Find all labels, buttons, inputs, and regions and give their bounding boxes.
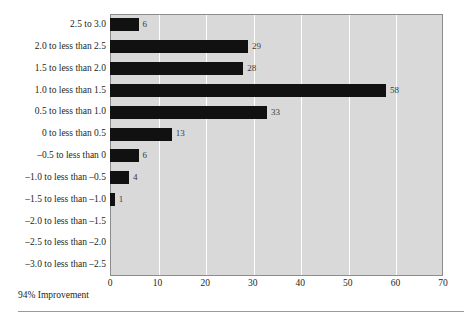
x-tick-label: 40: [296, 277, 306, 289]
horizontal-rule: [18, 311, 464, 312]
category-label: 0.5 to less than 1.0: [0, 101, 106, 123]
bar-row: 6: [110, 14, 443, 36]
bar-row: 58: [110, 80, 443, 102]
x-tick-label: 30: [248, 277, 258, 289]
bar: [110, 128, 172, 141]
bar-value-label: 13: [176, 125, 185, 142]
footnote-label: 94% Improvement: [18, 289, 89, 301]
bar-series: 62928583313641: [110, 14, 443, 276]
x-tick-label: 0: [108, 277, 113, 289]
bar: [110, 106, 267, 119]
bar-chart-figure: 2.5 to 3.02.0 to less than 2.51.5 to les…: [0, 0, 468, 326]
category-label: –1.5 to less than –1.0: [0, 189, 106, 211]
category-label: –2.5 to less than –2.0: [0, 232, 106, 254]
bar-row: 33: [110, 101, 443, 123]
bar-value-label: 28: [247, 60, 256, 77]
x-tick-label: 50: [343, 277, 353, 289]
bar-value-label: 4: [133, 169, 138, 186]
x-tick-label: 20: [200, 277, 210, 289]
bar: [110, 193, 115, 206]
bar-row: 6: [110, 145, 443, 167]
bar-value-label: 29: [252, 38, 261, 55]
bar-row: [110, 211, 443, 233]
bar: [110, 171, 129, 184]
bar: [110, 62, 243, 75]
category-label: 1.5 to less than 2.0: [0, 58, 106, 80]
category-axis-labels: 2.5 to 3.02.0 to less than 2.51.5 to les…: [0, 14, 106, 276]
bar: [110, 18, 139, 31]
category-label: –3.0 to less than –2.5: [0, 254, 106, 276]
x-tick-label: 10: [153, 277, 163, 289]
category-label: –1.0 to less than –0.5: [0, 167, 106, 189]
bar-row: 29: [110, 36, 443, 58]
bar-value-label: 6: [143, 16, 148, 33]
category-label: –0.5 to less than 0: [0, 145, 106, 167]
bar-row: 4: [110, 167, 443, 189]
bar-value-label: 1: [119, 191, 124, 208]
bar-row: 28: [110, 58, 443, 80]
bar-value-label: 6: [143, 147, 148, 164]
x-tick-label: 70: [438, 277, 448, 289]
bar-value-label: 58: [390, 82, 399, 99]
category-label: 1.0 to less than 1.5: [0, 80, 106, 102]
bar-row: [110, 254, 443, 276]
category-label: 0 to less than 0.5: [0, 123, 106, 145]
category-label: 2.5 to 3.0: [0, 14, 106, 36]
category-label: –2.0 to less than –1.5: [0, 211, 106, 233]
bar-row: 13: [110, 123, 443, 145]
bar: [110, 84, 386, 97]
bar-row: 1: [110, 189, 443, 211]
bar-row: [110, 232, 443, 254]
bar: [110, 40, 248, 53]
bar-value-label: 33: [271, 104, 280, 121]
bar: [110, 149, 139, 162]
category-label: 2.0 to less than 2.5: [0, 36, 106, 58]
x-tick-label: 60: [391, 277, 401, 289]
